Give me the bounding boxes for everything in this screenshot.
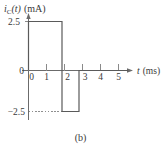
- x-tick-label-0: 0: [29, 72, 34, 82]
- x-tick-label-5: 5: [116, 72, 121, 82]
- figure-panel: iC(t)(mA) 2.5 0 −2.5 0 1 2 3 4 5 t(ms): [0, 0, 161, 144]
- y-tick-label-0: 0: [19, 66, 24, 76]
- y-axis-label: iC(t)(mA): [4, 3, 46, 16]
- y-tick-label-neg2p5: −2.5: [8, 107, 25, 117]
- x-tick-label-3: 3: [83, 72, 88, 82]
- x-axis-label-unit: (ms): [143, 66, 160, 77]
- waveform-chart: iC(t)(mA) 2.5 0 −2.5 0 1 2 3 4 5 t(ms): [0, 0, 161, 144]
- x-tick-label-4: 4: [98, 72, 103, 82]
- x-axis-label: t(ms): [137, 66, 160, 77]
- x-axis-label-symbol: t: [137, 66, 140, 76]
- y-axis-label-argument: (t): [11, 3, 21, 15]
- waveform-trace: [29, 22, 129, 112]
- y-tick-label-2p5: 2.5: [8, 17, 20, 27]
- x-tick-label-2: 2: [65, 72, 70, 82]
- x-tick-label-1: 1: [44, 72, 49, 82]
- figure-caption: (b): [0, 132, 161, 143]
- y-axis-label-unit: (mA): [24, 3, 46, 15]
